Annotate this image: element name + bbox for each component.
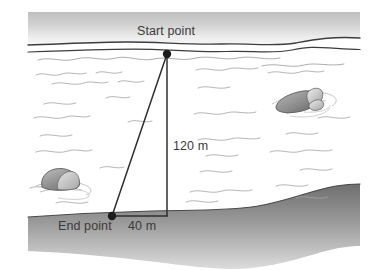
diagram-illustration bbox=[0, 0, 377, 270]
start-point-marker bbox=[163, 50, 171, 58]
submerged-rock-right bbox=[272, 88, 336, 117]
measurement-triangle bbox=[112, 54, 167, 216]
base-length-label: 40 m bbox=[128, 219, 156, 233]
diagram-canvas: Start point End point 40 m 120 m bbox=[0, 0, 377, 270]
hypotenuse-line bbox=[112, 54, 167, 216]
surface-ripple-line bbox=[38, 57, 344, 66]
submerged-rock-left bbox=[36, 168, 91, 199]
height-length-label: 120 m bbox=[173, 139, 208, 153]
end-point-label: End point bbox=[58, 219, 112, 233]
start-point-label: Start point bbox=[137, 24, 195, 38]
